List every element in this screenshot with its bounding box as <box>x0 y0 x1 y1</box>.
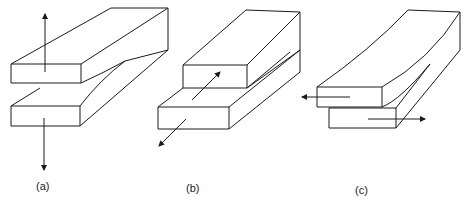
panel-a-opening-mode <box>11 8 168 170</box>
diagram-canvas <box>0 0 470 200</box>
panel-b-sliding-mode <box>158 10 300 146</box>
panel-c-label: (c) <box>355 184 368 196</box>
crack-modes-figure: (a) (b) (c) <box>0 0 470 200</box>
panel-b-label: (b) <box>186 182 199 194</box>
panel-c-tearing-mode <box>302 10 460 128</box>
panel-a-label: (a) <box>36 180 49 192</box>
